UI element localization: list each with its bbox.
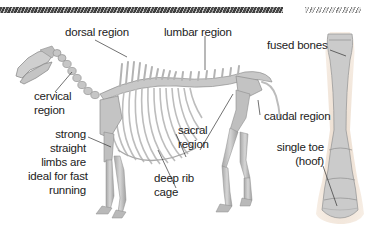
label-limbs-line-5: running (28, 183, 86, 197)
label-strong-limbs: strong straight limbs are ideal for fast… (28, 127, 86, 197)
label-dorsal-region: dorsal region (65, 25, 129, 39)
label-cervical-line-1: cervical (34, 89, 71, 103)
hind-legs (216, 76, 262, 212)
label-sacral-line-2: region (178, 137, 209, 151)
label-ribcage-line-1: deep rib (154, 171, 194, 185)
horse-skeleton-diagram: dorsal region lumbar region cervical reg… (0, 0, 369, 233)
label-sacral-region: sacral region (178, 123, 209, 151)
label-deep-rib-cage: deep rib cage (154, 171, 194, 199)
label-limbs-line-2: straight (28, 141, 86, 155)
label-single-toe: single toe (hoof) (266, 140, 324, 168)
skull (16, 46, 56, 84)
label-toe-line-1: single toe (266, 140, 324, 154)
label-limbs-line-3: limbs are (28, 155, 86, 169)
label-cervical-line-2: region (34, 103, 71, 117)
label-caudal-region: caudal region (264, 109, 330, 123)
label-lumbar-region: lumbar region (164, 25, 232, 39)
label-limbs-line-1: strong (28, 127, 86, 141)
label-sacral-line-1: sacral (178, 123, 209, 137)
leg-bone-detail (316, 32, 364, 224)
label-fused-bones: fused bones (267, 38, 327, 52)
label-ribcage-line-2: cage (154, 185, 194, 199)
front-legs (96, 96, 126, 218)
label-cervical-region: cervical region (34, 89, 71, 117)
label-limbs-line-4: ideal for fast (28, 169, 86, 183)
label-toe-line-2: (hoof) (266, 154, 324, 168)
